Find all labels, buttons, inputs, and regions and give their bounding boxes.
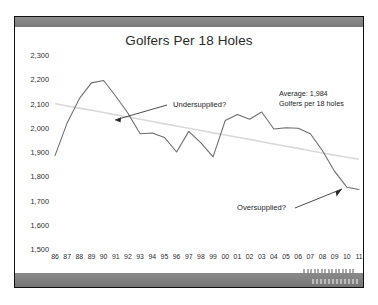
- trend-line: [55, 104, 359, 160]
- source-note: [303, 269, 355, 273]
- chart-area: Golfers Per 18 Holes 2,3002,2002,1002,00…: [15, 27, 363, 275]
- average-value: Average: 1,984: [279, 89, 344, 99]
- oversupplied-arrow: [295, 189, 342, 208]
- slide-frame: Golfers Per 18 Holes 2,3002,2002,1002,00…: [14, 16, 364, 288]
- slide-header-bar: [15, 17, 363, 27]
- footer-watermark: [312, 279, 358, 284]
- annotation-undersupplied: Undersupplied?: [173, 100, 226, 109]
- average-units: Golfers per 18 holes: [279, 99, 344, 109]
- chart-plot-svg: [15, 27, 365, 275]
- annotation-oversupplied: Oversupplied?: [237, 203, 286, 212]
- slide-footer-bar: [15, 273, 363, 287]
- average-callout: Average: 1,984 Golfers per 18 holes: [279, 89, 344, 110]
